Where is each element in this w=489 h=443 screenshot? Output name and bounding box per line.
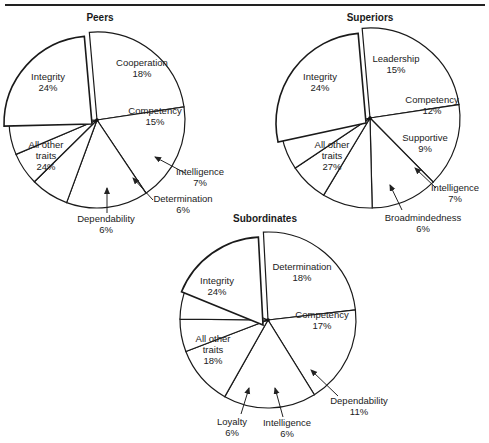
slice-label: Loyalty6%: [217, 416, 247, 438]
slice-label: Dependability11%: [330, 395, 388, 417]
slice-label: Broadmindedness6%: [385, 212, 462, 234]
slice-label: Dependability6%: [77, 213, 135, 235]
slice-label: Intelligence7%: [431, 182, 479, 204]
slice-label: Intelligence6%: [263, 417, 311, 439]
pie-charts: Integrity24%Cooperation18%Competency15%I…: [0, 0, 489, 443]
subordinates-pie: Integrity24%Determination18%Competency17…: [180, 232, 388, 439]
slice-label: Intelligence7%: [176, 166, 224, 188]
superiors-pie: Integrity24%Leadership15%Competency12%Su…: [276, 28, 479, 234]
slice-label: Determination6%: [153, 193, 212, 215]
peers-pie: Integrity24%Cooperation18%Competency15%I…: [4, 32, 224, 235]
